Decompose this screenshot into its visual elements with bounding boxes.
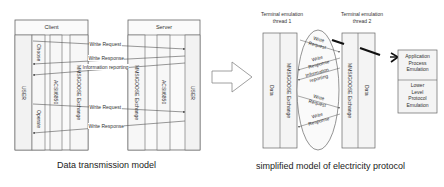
left-caption: Data transmission model [57,160,156,170]
client-choose-label: Choose [32,38,45,68]
stack-bottom-line4: Emulation [398,102,437,109]
thread2-title-line2: thread 2 [330,18,394,25]
stack-box-top-label: Application Process Emulation [398,53,437,73]
server-acsi-column: ACSI/6850 [157,35,170,150]
thread1-mms-goose-column: MMS/GOOSE Exchange [280,33,297,148]
stack-top-line3: Emulation [398,66,437,73]
server-mms-goose-column: MMS/GOOSE Exchange [128,55,145,130]
thread1-title-line2: thread 1 [250,18,314,25]
stack-box-bottom-label: Lower Level Protocol Emulation [398,82,437,108]
msg-write-request-2: Write Request [89,104,122,110]
thread2-title: Terminal emulation thread 2 [330,11,394,25]
client-operate-label: Operate [32,103,45,135]
client-acsi-column: ACSI/6850 [50,35,62,150]
server-user-column: USER [185,35,200,150]
msg-write-response-1: Write Response [88,55,124,61]
client-title: Client [15,24,88,30]
msg-write-response-2: Write Response [88,123,124,129]
thread1-title: Terminal emulation thread 1 [250,11,314,25]
block-arrow-right-icon [212,62,252,92]
thread2-title-line1: Terminal emulation [330,11,394,18]
right-caption: simplified model of electricity protocol [256,161,405,171]
msg-information-reporting: Information reporting [82,64,129,70]
thread1-data-column: Data [263,33,280,148]
thread2-data-column: Data [358,33,375,148]
thread2-mms-goose-column: MMS/GOOSE Exchange [342,33,358,148]
server-title: Server [128,24,200,30]
client-user-column: USER [15,35,32,150]
msg-write-request-1: Write Request [89,41,122,47]
thread1-title-line1: Terminal emulation [250,11,314,18]
